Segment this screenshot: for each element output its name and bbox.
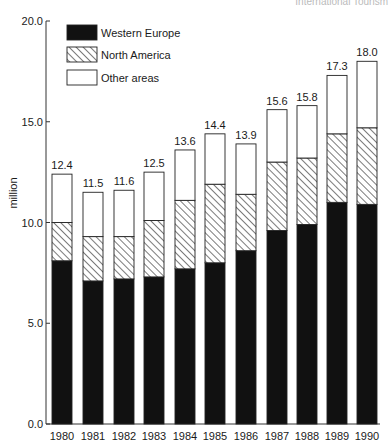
bar-1980: 12.4: [51, 159, 72, 424]
legend-label: Other areas: [101, 72, 160, 84]
bar-segment-other-areas: [52, 174, 72, 222]
legend-swatch-north-america: [67, 47, 97, 62]
bar-segment-north-america: [357, 128, 377, 205]
bar-1981: 11.5: [83, 177, 104, 424]
bar-total-label: 12.5: [143, 157, 164, 169]
bar-segment-western-europe: [267, 231, 287, 424]
bar-segment-western-europe: [297, 225, 317, 424]
bar-1989: 17.3: [326, 60, 347, 424]
bar-1982: 11.6: [114, 175, 135, 424]
y-tick-label: 10.0: [22, 217, 43, 229]
bar-total-label: 18.0: [356, 46, 377, 58]
bar-1984: 13.6: [174, 135, 195, 424]
bar-total-label: 13.9: [235, 129, 256, 141]
bar-segment-western-europe: [327, 202, 347, 424]
y-tick-label: 15.0: [22, 116, 43, 128]
bar-segment-western-europe: [52, 261, 72, 424]
y-tick-label: 5.0: [28, 317, 43, 329]
x-tick-label: 1986: [234, 430, 258, 442]
bar-segment-north-america: [327, 134, 347, 203]
bar-segment-western-europe: [114, 279, 134, 424]
stacked-bar-chart: 0.05.010.015.020.0 12.411.511.612.513.61…: [0, 0, 390, 446]
y-tick-label: 0.0: [28, 418, 43, 430]
bar-segment-other-areas: [297, 106, 317, 158]
x-tick-label: 1989: [325, 430, 349, 442]
bar-segment-western-europe: [236, 251, 256, 424]
bar-total-label: 17.3: [326, 60, 347, 72]
bar-segment-western-europe: [357, 204, 377, 424]
legend-swatch-other-areas: [67, 70, 97, 85]
x-tick-label: 1985: [203, 430, 227, 442]
bar-segment-other-areas: [205, 134, 225, 184]
bar-segment-north-america: [297, 158, 317, 224]
bar-segment-other-areas: [267, 110, 287, 162]
legend: Western EuropeNorth AmericaOther areas: [67, 25, 180, 85]
bar-segment-north-america: [205, 184, 225, 263]
legend-swatch-western-europe: [67, 25, 97, 40]
bar-segment-other-areas: [175, 150, 195, 200]
x-tick-label: 1980: [50, 430, 74, 442]
bar-total-label: 11.5: [83, 177, 104, 189]
bar-1986: 13.9: [235, 129, 256, 424]
x-tick-label: 1984: [173, 430, 197, 442]
bar-segment-north-america: [236, 194, 256, 250]
x-tick-label: 1988: [295, 430, 319, 442]
legend-label: North America: [101, 49, 172, 61]
bar-segment-western-europe: [83, 281, 103, 424]
y-axis-title: million: [7, 177, 19, 208]
bar-total-label: 15.6: [266, 95, 287, 107]
bar-segment-western-europe: [175, 269, 195, 424]
bar-1985: 14.4: [204, 119, 225, 424]
bar-1990: 18.0: [356, 46, 377, 424]
bar-segment-other-areas: [236, 144, 256, 194]
bar-total-label: 13.6: [174, 135, 195, 147]
bar-segment-north-america: [52, 223, 72, 261]
bar-segment-other-areas: [114, 190, 134, 236]
x-tick-label: 1981: [81, 430, 105, 442]
bar-segment-other-areas: [144, 172, 164, 220]
bar-segment-other-areas: [327, 75, 347, 133]
bar-segment-other-areas: [357, 61, 377, 127]
x-tick-label: 1987: [265, 430, 289, 442]
bars: 12.411.511.612.513.614.413.915.615.817.3…: [51, 46, 377, 424]
bar-segment-other-areas: [83, 192, 103, 236]
legend-label: Western Europe: [101, 27, 180, 39]
bar-1983: 12.5: [143, 157, 164, 424]
bar-segment-north-america: [175, 200, 195, 269]
bar-1988: 15.8: [296, 91, 317, 424]
bar-segment-western-europe: [144, 277, 164, 424]
x-tick-label: 1982: [112, 430, 136, 442]
bar-segment-north-america: [144, 220, 164, 276]
bar-total-label: 12.4: [51, 159, 72, 171]
bar-segment-western-europe: [205, 263, 225, 424]
bar-segment-north-america: [83, 237, 103, 281]
bar-total-label: 11.6: [114, 175, 135, 187]
bar-total-label: 14.4: [204, 119, 225, 131]
x-axis-labels: 1980198119821983198419851986198719881989…: [50, 430, 379, 442]
x-tick-label: 1983: [142, 430, 166, 442]
bar-segment-north-america: [114, 237, 134, 279]
bar-1987: 15.6: [266, 95, 287, 424]
bar-segment-north-america: [267, 162, 287, 231]
x-tick-label: 1990: [355, 430, 379, 442]
y-tick-label: 20.0: [22, 15, 43, 27]
bar-total-label: 15.8: [296, 91, 317, 103]
